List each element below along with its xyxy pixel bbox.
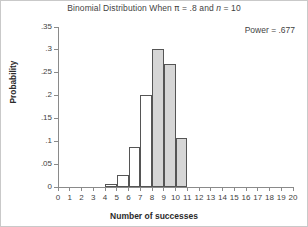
- x-tick-mark: [246, 187, 247, 191]
- x-tick-label: 3: [91, 193, 95, 202]
- y-tick-mark: [54, 27, 58, 28]
- chart-title-lead: Binomial Distribution When: [67, 3, 174, 13]
- x-tick-mark: [69, 187, 70, 191]
- y-tick-mark: [54, 118, 58, 119]
- x-tick-mark: [140, 187, 141, 191]
- x-tick-mark: [257, 187, 258, 191]
- y-tick-label: .35: [41, 22, 52, 31]
- x-tick-mark: [152, 187, 153, 191]
- y-tick-label: .05: [41, 159, 52, 168]
- bar-5: [117, 175, 129, 187]
- x-tick-label: 2: [79, 193, 83, 202]
- x-tick-label: 7: [138, 193, 142, 202]
- x-tick-label: 19: [277, 193, 286, 202]
- x-tick-mark: [281, 187, 282, 191]
- x-tick-label: 8: [150, 193, 154, 202]
- chart-title: Binomial Distribution When π = .8 and n …: [1, 3, 307, 13]
- x-tick-mark: [199, 187, 200, 191]
- x-tick-label: 16: [242, 193, 251, 202]
- x-tick-label: 18: [265, 193, 274, 202]
- y-tick-mark: [54, 141, 58, 142]
- x-tick-label: 5: [115, 193, 119, 202]
- y-tick-mark: [54, 95, 58, 96]
- bar-10: [176, 138, 188, 187]
- y-tick-label: .3: [45, 44, 52, 53]
- x-tick-label: 12: [195, 193, 204, 202]
- x-tick-label: 6: [126, 193, 130, 202]
- bar-4: [105, 184, 117, 187]
- y-axis-label: Probability: [8, 42, 18, 122]
- chart-title-mid: = .8 and: [180, 3, 217, 13]
- y-tick-mark: [54, 49, 58, 50]
- x-axis-label: Number of successes: [1, 211, 307, 221]
- x-tick-mark: [58, 187, 59, 191]
- y-tick-label: .2: [45, 90, 52, 99]
- bar-6: [129, 147, 141, 187]
- chart-figure: Binomial Distribution When π = .8 and n …: [0, 0, 308, 227]
- y-tick-label: .1: [45, 136, 52, 145]
- x-tick-label: 1: [68, 193, 72, 202]
- x-tick-mark: [128, 187, 129, 191]
- x-tick-mark: [269, 187, 270, 191]
- x-tick-mark: [116, 187, 117, 191]
- x-tick-mark: [175, 187, 176, 191]
- y-tick-mark: [54, 72, 58, 73]
- x-tick-mark: [187, 187, 188, 191]
- y-tick-label: .15: [41, 113, 52, 122]
- x-tick-mark: [93, 187, 94, 191]
- x-tick-label: 0: [56, 193, 60, 202]
- x-tick-label: 17: [253, 193, 262, 202]
- x-tick-mark: [234, 187, 235, 191]
- x-tick-label: 14: [218, 193, 227, 202]
- x-tick-mark: [222, 187, 223, 191]
- x-tick-label: 13: [206, 193, 215, 202]
- x-tick-label: 10: [171, 193, 180, 202]
- y-tick-label: .25: [41, 67, 52, 76]
- x-tick-mark: [163, 187, 164, 191]
- x-tick-mark: [105, 187, 106, 191]
- y-tick-mark: [54, 164, 58, 165]
- bar-7: [140, 95, 152, 187]
- x-tick-label: 11: [183, 193, 191, 202]
- bar-9: [164, 64, 176, 187]
- x-tick-mark: [81, 187, 82, 191]
- plot-area: 0.05.1.15.2.25.3.35012345678910111213141…: [58, 27, 293, 187]
- x-tick-label: 15: [230, 193, 239, 202]
- x-tick-label: 9: [162, 193, 166, 202]
- x-tick-label: 4: [103, 193, 107, 202]
- bar-8: [152, 49, 164, 187]
- x-tick-label: 20: [289, 193, 298, 202]
- chart-title-tail: = 10: [221, 3, 241, 13]
- x-tick-mark: [293, 187, 294, 191]
- y-tick-label: 0: [48, 182, 52, 191]
- x-tick-mark: [210, 187, 211, 191]
